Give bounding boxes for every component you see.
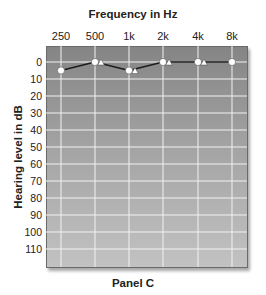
circle-marker-icon [125, 67, 132, 74]
circle-marker-icon [57, 67, 64, 74]
audiogram-plot [0, 0, 266, 295]
circle-marker-icon [159, 58, 166, 65]
circle-marker-icon [194, 58, 201, 65]
circle-marker-icon [91, 58, 98, 65]
circle-marker-icon [228, 58, 235, 65]
panel-caption: Panel C [0, 277, 266, 289]
